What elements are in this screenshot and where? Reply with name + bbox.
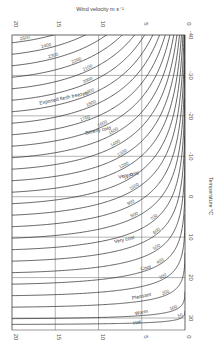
curve-label: 200 — [161, 288, 170, 296]
y-tick: 10 — [188, 234, 194, 241]
curve-label: 100 — [169, 304, 178, 311]
x-tick-top: 5 — [143, 22, 149, 26]
zone-label: Bitterly cold — [85, 124, 112, 135]
y-tick: -40 — [188, 31, 194, 40]
grid-lines — [12, 35, 185, 330]
zone-labels: Exposed flesh freezesBitterly coldVery c… — [39, 90, 152, 326]
y-tick: 30 — [188, 315, 194, 322]
curve-label: 2400 — [41, 42, 53, 49]
curve-label: 50 — [177, 312, 184, 319]
x-tick-top: 0 — [186, 22, 192, 26]
x-tick-bottom: 15 — [56, 334, 62, 341]
curve-label: 600 — [152, 226, 161, 235]
curve-label: 700 — [149, 213, 158, 222]
zone-label: Very cool — [113, 234, 134, 244]
y-tick: -30 — [188, 71, 194, 80]
x-tick-bottom: 10 — [100, 334, 106, 341]
x-tick-top: 10 — [100, 21, 106, 28]
curve-labels: 2500240023002200210020001900180017001600… — [19, 35, 184, 319]
y-tick: 0 — [188, 195, 194, 199]
x-axis-title: Wind velocity m s⁻¹ — [76, 6, 124, 12]
y-tick: 20 — [188, 274, 194, 281]
curve-label: 2300 — [48, 52, 60, 59]
zone-label: Cool — [140, 264, 151, 272]
x-tick-bottom: 20 — [13, 334, 19, 341]
y-tick: -10 — [188, 152, 194, 161]
y-axis-title: Temperature °C — [208, 177, 214, 216]
y-tick: -20 — [188, 112, 194, 121]
x-tick-bottom: 0 — [186, 335, 192, 339]
x-tick-top: 15 — [56, 21, 62, 28]
x-tick-bottom: 5 — [143, 335, 149, 339]
x-tick-top: 20 — [13, 21, 19, 28]
zone-label: Hot — [133, 318, 142, 326]
wind-chill-nomogram: Wind velocity m s⁻¹ 25002400230022002100… — [0, 0, 220, 357]
